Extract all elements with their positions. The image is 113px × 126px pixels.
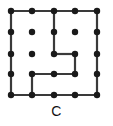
grid-dot-r4-c3 <box>51 71 57 77</box>
grid-dot-r3-c1 <box>8 51 14 57</box>
grid-dot-r5-c1 <box>8 92 14 98</box>
grid-dot-r5-c2 <box>29 92 35 98</box>
grid-dot-r5-c5 <box>94 92 100 98</box>
grid-dot-r4-c2 <box>29 71 35 77</box>
grid-dot-r3-c4 <box>72 51 78 57</box>
figure-caption-label: C <box>0 103 113 119</box>
grid-dot-r1-c3 <box>51 8 57 14</box>
grid-dot-r4-c1 <box>8 71 14 77</box>
grid-dot-r1-c2 <box>29 8 35 14</box>
grid-dot-r3-c5 <box>94 51 100 57</box>
grid-dot-r3-c2 <box>29 51 35 57</box>
grid-dot-r2-c4 <box>72 29 78 35</box>
grid-dot-r3-c3 <box>51 51 57 57</box>
grid-dot-r5-c4 <box>72 92 78 98</box>
grid-dot-r2-c1 <box>8 29 14 35</box>
grid-dot-r1-c1 <box>8 8 14 14</box>
grid-dot-r5-c3 <box>51 92 57 98</box>
grid-dot-r2-c3 <box>51 29 57 35</box>
grid-dot-r2-c5 <box>94 29 100 35</box>
grid-dot-r2-c2 <box>29 29 35 35</box>
grid-dot-r4-c5 <box>94 71 100 77</box>
grid-dot-r1-c4 <box>72 8 78 14</box>
grid-dot-r1-c5 <box>94 8 100 14</box>
grid-dot-r4-c4 <box>72 71 78 77</box>
figure-container: C <box>0 0 113 126</box>
